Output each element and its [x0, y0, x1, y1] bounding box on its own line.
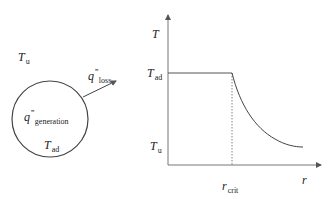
temperature-decay-curve	[232, 73, 303, 147]
y-tick-t-ad: Tad	[147, 67, 162, 82]
heat-loss-label: q'''loss	[88, 69, 111, 85]
diagram-canvas	[0, 0, 332, 199]
heat-generation-label: q'''generation	[24, 110, 69, 126]
y-axis-label: T	[152, 28, 159, 40]
inner-temp-label: Tad	[44, 139, 59, 154]
x-axis-label: r	[302, 174, 307, 186]
x-tick-r-crit: rcrit	[222, 180, 238, 195]
ambient-temp-label: Tu	[18, 51, 30, 66]
y-tick-t-u: Tu	[150, 140, 162, 155]
